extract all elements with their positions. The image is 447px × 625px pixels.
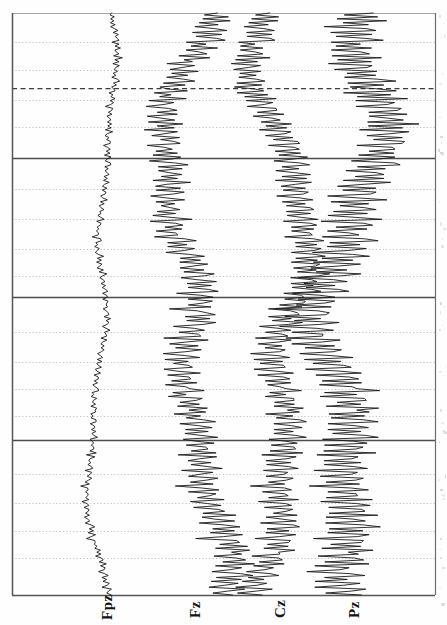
scan-speck [445,431,447,434]
scan-speck [445,366,447,368]
gridlines-layer [12,43,435,559]
scan-speck [439,549,441,550]
scan-speck [440,136,443,138]
scan-speck [438,479,440,481]
scan-speck [441,245,444,249]
scan-speck [441,494,443,495]
scan-speck [439,201,440,203]
scan-speck [444,35,445,38]
scan-speck [439,371,442,373]
channel-label-fz: Fz [188,601,203,618]
scan-speck [441,142,442,144]
scan-speck [443,494,445,497]
channel-label-cz: Cz [273,600,288,619]
scan-speck [442,73,444,75]
eeg-figure-panel: FpzFzCzPz [0,0,447,625]
scan-speck [440,152,442,154]
scan-speck [443,228,446,230]
scan-speck [439,83,442,85]
scan-speck [445,475,446,478]
scan-speck [442,238,443,240]
scan-speck [439,15,441,18]
scan-speck [440,302,442,305]
scan-speck [441,37,442,38]
channel-label-fpz: Fpz [100,594,115,620]
scan-speck [439,117,441,118]
scan-speck [440,557,442,560]
channel-label-pz: Pz [347,601,362,618]
scan-speck [441,422,444,424]
scan-speck [439,329,442,330]
eeg-plot-canvas [0,0,447,625]
scan-speck [442,603,445,606]
scan-speck [440,538,443,539]
scan-speck [441,489,443,492]
scan-speck [440,409,442,412]
scan-speck [439,441,441,443]
scan-speck [442,498,445,500]
scan-speck [444,306,445,308]
scan-speck [440,311,442,314]
scan-speck [443,23,444,24]
scan-speck [440,222,442,225]
scan-speck [439,587,441,588]
scan-speck [443,375,444,377]
scan-speck [442,325,443,327]
scan-speck [442,567,445,569]
